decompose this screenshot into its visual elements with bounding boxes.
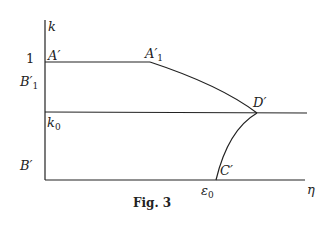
point-a-prime: A′	[48, 49, 60, 62]
tick-k0: k0	[47, 116, 61, 132]
tick-b1-prime: B′1	[20, 75, 38, 91]
tick-eps0: ε0	[201, 184, 214, 200]
tick-b-prime: B′	[20, 159, 33, 172]
figure-caption: Fig. 3	[133, 196, 171, 210]
point-c-prime: C′	[220, 164, 233, 177]
k0-line	[45, 112, 307, 113]
x-axis-label: η	[307, 183, 315, 196]
point-a1-prime: A′1	[145, 47, 163, 63]
y-axis-label: k	[48, 20, 56, 33]
curve-a1-d	[150, 62, 257, 113]
tick-one: 1	[26, 52, 34, 65]
point-d-prime: D′	[253, 96, 266, 109]
